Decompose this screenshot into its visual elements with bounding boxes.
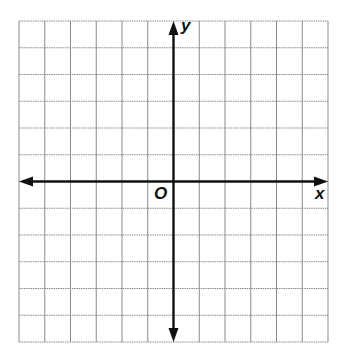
x-axis-label: x: [315, 184, 324, 204]
arrow-down-icon: [169, 328, 179, 342]
coordinate-plane: [0, 0, 340, 353]
y-axis-label: y: [181, 16, 190, 36]
origin-label: O: [154, 184, 167, 204]
arrow-up-icon: [169, 21, 179, 35]
axes: [19, 21, 328, 342]
arrow-left-icon: [19, 177, 33, 187]
